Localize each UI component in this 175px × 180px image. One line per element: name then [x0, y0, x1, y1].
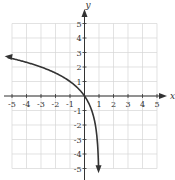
data-series [5, 54, 102, 173]
x-tick-label: 3 [125, 100, 130, 109]
y-tick-label: -1 [74, 107, 82, 116]
curve-start-arrow-icon [5, 54, 13, 60]
y-tick-label: 1 [76, 78, 81, 87]
x-axis-title: x [170, 91, 175, 101]
y-axis-arrow-icon [82, 9, 88, 17]
y-tick-label: 2 [76, 63, 81, 72]
y-tick-label: -4 [74, 150, 82, 159]
x-tick-label: 4 [140, 100, 145, 109]
x-tick-label: 5 [154, 100, 159, 109]
chart: -5-4-3-2-112345-5-4-3-2-112345 x y [0, 0, 175, 180]
x-tick-label: 1 [96, 100, 101, 109]
x-tick-label: -5 [8, 100, 16, 109]
y-tick-label: 3 [76, 49, 81, 58]
y-tick-label: 4 [76, 34, 81, 43]
y-tick-label: -2 [74, 121, 82, 130]
x-tick-label: 2 [111, 100, 116, 109]
x-axis-arrow-icon [159, 93, 167, 99]
y-axis-title: y [85, 0, 92, 10]
x-tick-label: -3 [37, 100, 45, 109]
y-tick-label: 5 [76, 20, 81, 29]
x-tick-label: -4 [23, 100, 31, 109]
y-tick-label: -3 [74, 136, 82, 145]
curve-end-arrow-icon [96, 165, 102, 173]
x-tick-label: -2 [52, 100, 60, 109]
y-tick-label: -5 [74, 165, 82, 174]
